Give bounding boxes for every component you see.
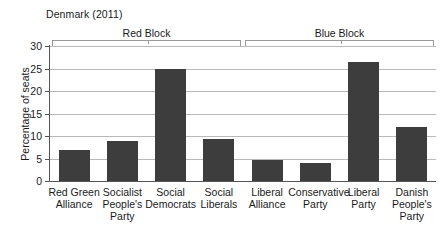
y-tick-label-30: 30 (16, 41, 42, 52)
bar (203, 139, 234, 181)
x-category-label: DanishPeople'sParty (385, 186, 439, 223)
x-category-label: SocialDemocrats (144, 186, 198, 210)
x-category-label: Red GreenAlliance (47, 186, 101, 210)
y-tick-label-5: 5 (16, 154, 42, 165)
y-tick-label-0: 0 (16, 176, 42, 187)
bracket-blue-block (245, 40, 434, 46)
bar (107, 141, 138, 181)
x-category-label: SocialistPeople'sParty (95, 186, 149, 223)
x-category-label: LiberalAlliance (240, 186, 294, 210)
y-tick-label-25: 25 (16, 64, 42, 75)
bar (59, 150, 90, 181)
y-tick-label-10: 10 (16, 131, 42, 142)
x-category-line: Liberal (337, 186, 391, 198)
y-tick-label-15: 15 (16, 109, 42, 120)
bracket-red-block (52, 40, 241, 46)
x-category-line: Conservative (288, 186, 342, 198)
x-category-label: ConservativeParty (288, 186, 342, 210)
bar (300, 163, 331, 181)
x-category-line: People's (385, 198, 439, 210)
x-category-line: Alliance (240, 198, 294, 210)
x-category-line: Alliance (47, 198, 101, 210)
blue-block-label: Blue Block (245, 27, 434, 39)
bracket-center-tick (148, 41, 149, 44)
x-category-line: Social (144, 186, 198, 198)
x-category-line: Socialist (95, 186, 149, 198)
x-category-line: Liberal (240, 186, 294, 198)
x-category-line: Democrats (144, 198, 198, 210)
bar (396, 127, 427, 181)
x-category-line: Red Green (47, 186, 101, 198)
gridline-0 (50, 181, 436, 182)
y-tick-label-20: 20 (16, 86, 42, 97)
red-block-label: Red Block (52, 27, 241, 39)
x-category-line: Liberals (192, 198, 246, 210)
x-category-label: SocialLiberals (192, 186, 246, 210)
bar (348, 62, 379, 181)
x-category-label: LiberalParty (337, 186, 391, 210)
x-category-line: Party (95, 210, 149, 222)
x-category-line: Danish (385, 186, 439, 198)
gridline-30 (50, 46, 436, 47)
chart-container: Denmark (2011) Percentage of seats 05101… (0, 0, 446, 246)
x-category-line: Social (192, 186, 246, 198)
x-category-line: Party (337, 198, 391, 210)
x-category-line: People's (95, 198, 149, 210)
x-category-line: Party (385, 210, 439, 222)
bracket-center-tick (341, 41, 342, 44)
x-category-line: Party (288, 198, 342, 210)
plot-area (50, 46, 436, 181)
chart-title: Denmark (2011) (46, 8, 122, 20)
bar (155, 69, 186, 182)
bar (252, 160, 283, 181)
